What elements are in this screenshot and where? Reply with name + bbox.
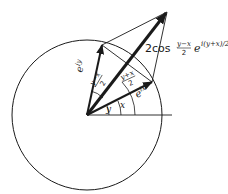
label-eiy: e iy	[72, 58, 87, 74]
svg-text:i(y+x)/2: i(y+x)/2	[201, 40, 228, 48]
label-angle-y: y	[105, 104, 112, 114]
parallelogram-side-top	[102, 12, 167, 45]
svg-text:2: 2	[182, 49, 186, 57]
vector-sum-diagram: e iy y−x 2 y+x 2 e ix y x 2cos y−x 2 e i…	[0, 0, 228, 194]
label-angle-x: x	[120, 100, 125, 110]
svg-text:e: e	[194, 42, 201, 55]
svg-text:2cos: 2cos	[145, 42, 171, 55]
label-sum: 2cos y−x 2 e i(y+x)/2	[145, 40, 228, 57]
angle-arc-half-sum	[122, 82, 135, 115]
label-eix: e ix	[133, 84, 149, 100]
svg-text:iy: iy	[74, 58, 84, 67]
svg-text:2: 2	[98, 80, 107, 88]
svg-text:2: 2	[127, 79, 134, 88]
svg-text:y−x: y−x	[176, 40, 191, 48]
